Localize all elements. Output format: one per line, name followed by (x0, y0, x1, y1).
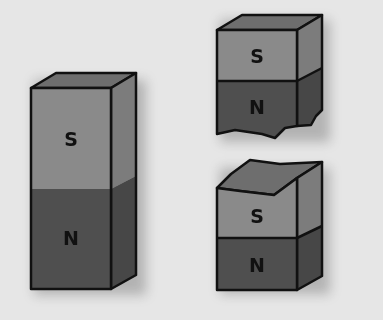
upper-broken-piece (217, 15, 322, 138)
whole-magnet (31, 73, 136, 289)
whole-magnet-north-label: N (63, 227, 79, 249)
magnet-diagram: S N S N S N (0, 0, 383, 320)
lower-piece-north-label: N (249, 254, 265, 276)
south-side-face (111, 73, 136, 189)
whole-magnet-south-label: S (64, 128, 78, 150)
upper-piece-south-label: S (250, 45, 264, 67)
upper-piece-north-label: N (249, 96, 265, 118)
north-side-face (111, 176, 136, 289)
lower-piece-south-label: S (250, 205, 264, 227)
lower-broken-piece (217, 160, 322, 290)
